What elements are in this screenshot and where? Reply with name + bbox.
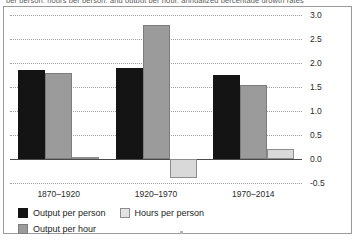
zero-axis-line: [10, 159, 302, 160]
figure-frame: 3.02.52.01.51.00.50.0-0.51870–19201920–1…: [3, 6, 352, 234]
bar: [213, 75, 240, 159]
footer-marker: [180, 231, 183, 234]
gridline: [10, 183, 302, 184]
legend-swatch-icon: [120, 208, 130, 218]
legend-item-hours-per-person: Hours per person: [120, 208, 205, 218]
x-axis-category-label: 1870–1920: [37, 189, 80, 199]
y-axis-tick-label: 2.5: [310, 34, 344, 44]
clipped-caption-text: per person, hours per person, and output…: [6, 0, 351, 3]
bar: [267, 149, 294, 159]
legend-label: Output per hour: [33, 224, 96, 234]
bar: [170, 159, 197, 178]
y-axis-tick-label: 1.5: [310, 82, 344, 92]
legend-label: Hours per person: [135, 208, 205, 218]
bar: [72, 157, 99, 159]
y-axis-tick-label: -0.5: [310, 178, 344, 188]
legend-row: Output per person Hours per person: [18, 205, 338, 220]
legend-swatch-icon: [18, 224, 28, 234]
y-axis-tick-label: 3.0: [310, 10, 344, 20]
legend-label: Output per person: [33, 208, 106, 218]
bar: [116, 68, 143, 159]
x-axis-category-label: 1970–2014: [232, 189, 275, 199]
chart-legend: Output per person Hours per person Outpu…: [18, 205, 338, 236]
x-axis-category-label: 1920–1970: [135, 189, 178, 199]
legend-item-output-per-person: Output per person: [18, 208, 106, 218]
gridline: [10, 15, 302, 16]
legend-swatch-icon: [18, 208, 28, 218]
bar: [45, 73, 72, 159]
y-axis-tick-label: 2.0: [310, 58, 344, 68]
y-axis-tick-label: 0.5: [310, 130, 344, 140]
legend-row: Output per hour: [18, 221, 338, 236]
bar: [18, 70, 45, 159]
bar: [240, 85, 267, 159]
y-axis-tick-label: 0.0: [310, 154, 344, 164]
plot-area: 3.02.52.01.51.00.50.0-0.51870–19201920–1…: [10, 15, 302, 183]
y-axis-tick-label: 1.0: [310, 106, 344, 116]
legend-item-output-per-hour: Output per hour: [18, 224, 96, 234]
bar: [143, 25, 170, 159]
